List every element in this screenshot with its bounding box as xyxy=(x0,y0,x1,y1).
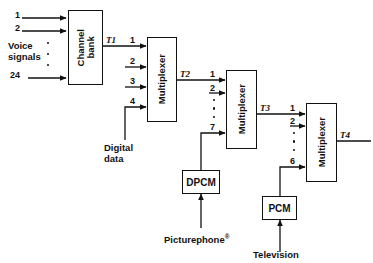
multiplexer-1-block[interactable]: Multiplexer xyxy=(147,37,177,122)
mux3-input-2-label: 2 xyxy=(290,116,295,126)
multiplexer-1-label: Multiplexer xyxy=(157,54,167,104)
mux1-input-2-label: 2 xyxy=(130,56,135,66)
voice-input-1-label: 1 xyxy=(15,10,20,20)
voice-input-24-label: 24 xyxy=(10,70,20,80)
mux3-inputs-ellipsis xyxy=(292,132,296,151)
mux1-input-3-label: 3 xyxy=(130,76,135,86)
picturephone-label: Picturephone® xyxy=(164,233,230,246)
mux2-input-2-label: 2 xyxy=(210,83,215,93)
multiplexer-2-label: Multiplexer xyxy=(237,84,247,134)
pcm-block[interactable]: PCM xyxy=(262,196,297,220)
voice-signals-ellipsis xyxy=(46,42,50,66)
mux1-input-4-label: 4 xyxy=(130,96,135,106)
mux2-input-1-label: 1 xyxy=(210,69,215,79)
voice-signals-label: Voicesignals xyxy=(8,41,41,62)
multiplexer-3-label: Multiplexer xyxy=(317,117,327,167)
mux1-input-1-label: 1 xyxy=(130,35,135,45)
channel-bank-block[interactable]: Channelbank xyxy=(68,10,103,85)
multiplexer-2-block[interactable]: Multiplexer xyxy=(226,70,257,149)
multiplexer-3-block[interactable]: Multiplexer xyxy=(306,103,337,182)
mux2-inputs-ellipsis xyxy=(212,99,216,118)
multiplexing-hierarchy-diagram: Channelbank Multiplexer Multiplexer Mult… xyxy=(0,0,373,263)
t1-signal-label: T1 xyxy=(106,35,116,45)
mux2-input-7-label: 7 xyxy=(210,122,215,132)
voice-input-2-label: 2 xyxy=(15,23,20,33)
pcm-label: PCM xyxy=(268,203,290,214)
digital-data-label: Digitaldata xyxy=(104,143,133,164)
t4-signal-label: T4 xyxy=(340,130,350,140)
t2-signal-label: T2 xyxy=(180,69,190,79)
television-label: Television xyxy=(253,250,299,261)
registered-trademark-icon: ® xyxy=(225,233,230,240)
dpcm-label: DPCM xyxy=(186,177,215,188)
mux3-input-6-label: 6 xyxy=(290,156,295,166)
t3-signal-label: T3 xyxy=(260,103,270,113)
mux3-input-1-label: 1 xyxy=(290,103,295,113)
channel-bank-label: Channelbank xyxy=(76,29,96,66)
dpcm-block[interactable]: DPCM xyxy=(182,170,220,194)
